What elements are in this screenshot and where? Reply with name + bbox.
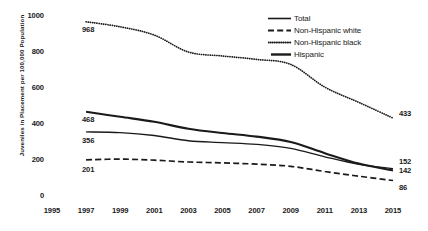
legend-swatch-dotted-icon [268, 37, 294, 48]
series-end-value-label: 142 [399, 166, 411, 175]
legend-swatch-solid-thick-icon [268, 49, 294, 60]
line-chart: Juveniles in Placement per 100,000 Popul… [0, 0, 428, 231]
series-start-value-label: 201 [82, 165, 94, 174]
series-end-value-label: 86 [399, 183, 407, 192]
legend-item-label: Total [294, 14, 310, 23]
series-start-value-label: 968 [82, 25, 94, 34]
legend-item-label: Non-Hispanic black [294, 38, 361, 47]
legend-item-label: Non-Hispanic white [294, 26, 361, 35]
legend-swatch-dashed-icon [268, 25, 294, 36]
chart-legend: TotalNon-Hispanic whiteNon-Hispanic blac… [268, 13, 361, 60]
series-start-value-label: 468 [82, 115, 94, 124]
legend-item: Total [268, 13, 361, 24]
legend-item: Hispanic [268, 49, 361, 60]
legend-item: Non-Hispanic white [268, 25, 361, 36]
plot-area [0, 0, 428, 231]
legend-swatch-solid-thin-icon [268, 13, 294, 24]
series-start-value-label: 356 [82, 136, 94, 145]
legend-item: Non-Hispanic black [268, 37, 361, 48]
series-line [86, 132, 393, 169]
series-end-value-label: 433 [399, 109, 411, 118]
series-end-value-label: 152 [399, 157, 411, 166]
legend-item-label: Hispanic [294, 50, 324, 59]
series-canvas [0, 0, 428, 231]
